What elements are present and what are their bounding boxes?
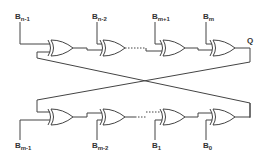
label-b-m+1: Bm+1 (152, 13, 170, 22)
xor-chain-diagram: Bn-1 Bn-2 Bm+1 Bm Q Bm-1 Bm-2 B1 B0 (0, 0, 267, 159)
label-b-n-1: Bn-1 (15, 13, 30, 22)
bottom-row (20, 103, 250, 140)
xor-gate-top-4 (210, 40, 235, 56)
xor-gate-bottom-2 (100, 109, 125, 125)
xor-gate-bottom-4 (210, 109, 235, 125)
label-q-output: Q (247, 37, 253, 45)
xor-gate-top-1 (48, 40, 73, 56)
label-b-m-1: Bm-1 (15, 142, 31, 151)
top-row (20, 22, 250, 62)
label-b-m: Bm (203, 13, 214, 22)
label-b-m-2: Bm-2 (92, 142, 108, 151)
xor-gate-bottom-1 (48, 109, 73, 125)
xor-gate-top-2 (100, 40, 125, 56)
label-b-0: B0 (203, 142, 212, 151)
label-b-1: B1 (152, 142, 161, 151)
label-b-n-2: Bn-2 (92, 13, 107, 22)
xor-gate-top-3 (160, 40, 185, 56)
circuit-wires (0, 0, 267, 159)
xor-gate-bottom-3 (160, 109, 185, 125)
